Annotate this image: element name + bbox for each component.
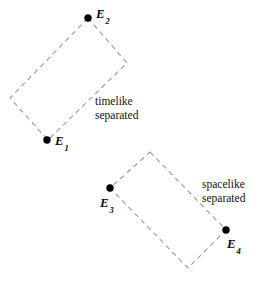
- event-label-e2-base: E: [96, 6, 105, 21]
- spacelike-caption-line-2: separated: [202, 192, 245, 206]
- spacelike-separated-caption: spacelike separated: [202, 178, 245, 205]
- event-dot-e3: [106, 184, 113, 191]
- spacetime-separation-diagram: E1 E2 E3 E4 timelike separated spacelike…: [0, 0, 262, 281]
- spacelike-caption-line-1: spacelike: [202, 178, 245, 192]
- event-label-e1-subscript: 1: [64, 143, 68, 153]
- event-dot-e2: [84, 14, 91, 21]
- event-label-e3-subscript: 3: [109, 205, 113, 215]
- event-label-e3: E3: [100, 196, 113, 212]
- timelike-caption-line-1: timelike: [95, 95, 138, 109]
- event-label-e1-base: E: [55, 133, 64, 148]
- timelike-caption-line-2: separated: [95, 109, 138, 123]
- timelike-separated-caption: timelike separated: [95, 95, 138, 122]
- event-label-e2: E2: [96, 7, 109, 23]
- event-label-e1: E1: [55, 134, 68, 150]
- event-label-e3-base: E: [100, 195, 109, 210]
- event-label-e4-base: E: [227, 236, 236, 251]
- diagram-canvas: [0, 0, 262, 281]
- event-dot-e4: [222, 226, 229, 233]
- event-label-e4-subscript: 4: [236, 246, 240, 256]
- event-label-e4: E4: [227, 237, 240, 253]
- event-label-e2-subscript: 2: [105, 16, 109, 26]
- event-dot-e1: [43, 136, 50, 143]
- spacelike-separation-rectangle: [110, 152, 226, 268]
